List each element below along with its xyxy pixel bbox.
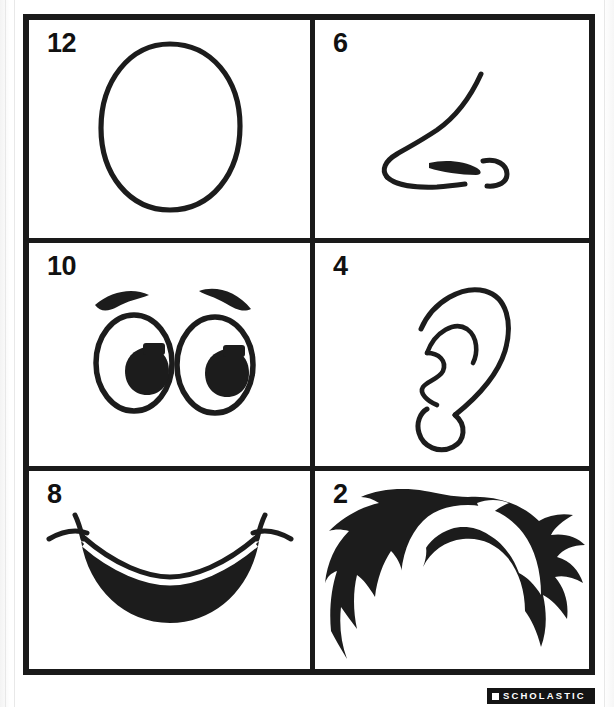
art-eyes — [29, 243, 310, 466]
cell-ear[interactable]: 4 — [315, 243, 596, 466]
art-mouth — [29, 471, 310, 675]
cell-eyes[interactable]: 10 — [29, 243, 310, 466]
art-face-outline — [29, 20, 310, 238]
cell-nose[interactable]: 6 — [315, 20, 596, 238]
cell-face-outline[interactable]: 12 — [29, 20, 310, 238]
art-ear — [315, 243, 596, 466]
scan-artifact-line — [14, 0, 15, 707]
scan-artifact-line — [5, 0, 6, 707]
scan-artifact-line — [604, 0, 605, 707]
scholastic-wordmark: SCHOLASTIC — [503, 691, 586, 701]
worksheet-page: 12 6 10 — [0, 0, 614, 707]
scholastic-logo: SCHOLASTIC — [487, 688, 595, 704]
art-hair — [315, 471, 596, 675]
worksheet-grid: 12 6 10 — [23, 14, 595, 675]
cell-hair[interactable]: 2 — [315, 471, 596, 675]
scholastic-square-icon — [492, 693, 499, 700]
art-nose — [315, 20, 596, 238]
cell-mouth[interactable]: 8 — [29, 471, 310, 675]
